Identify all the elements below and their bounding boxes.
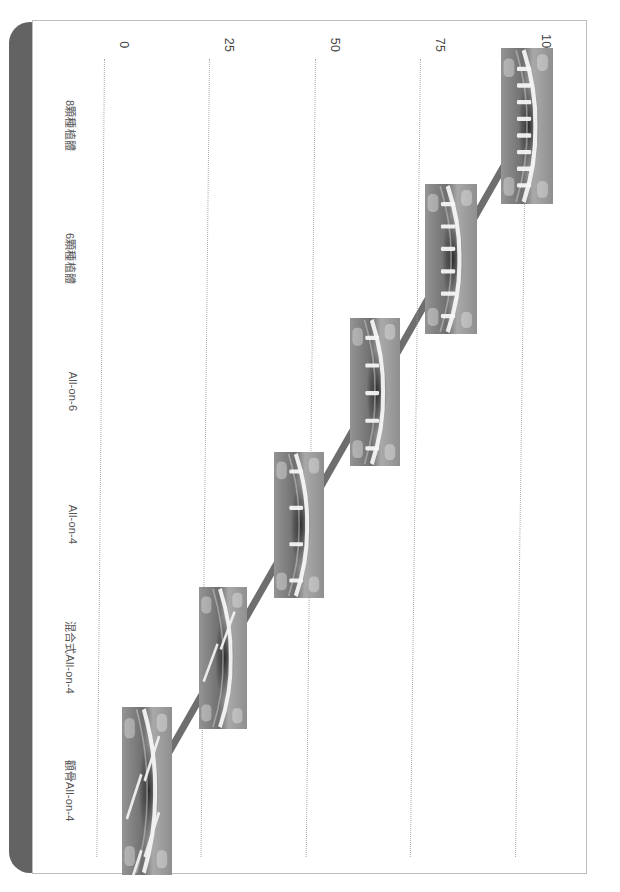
x1 [425, 184, 477, 334]
tick-label-50: 50 [328, 38, 342, 53]
x3 [274, 452, 324, 598]
category-label-2: All-on-6 [67, 372, 79, 412]
chart-plot-area[interactable]: 0255075100 8顆種植體6顆種植體All-on-6All-on-4混合式… [33, 21, 585, 873]
x5 [122, 707, 172, 875]
data-marker-0[interactable] [501, 48, 553, 204]
tick-label-75: 75 [434, 38, 448, 53]
category-label-4: 混合式All-on-4 [63, 621, 79, 694]
x0 [501, 48, 553, 204]
data-marker-1[interactable] [425, 184, 477, 334]
category-label-0: 8顆種植體 [63, 100, 79, 151]
x2 [350, 318, 400, 466]
data-marker-3[interactable] [274, 452, 324, 598]
slide-canvas: 0255075100 8顆種植體6顆種植體All-on-6All-on-4混合式… [0, 0, 620, 892]
data-marker-2[interactable] [350, 318, 400, 466]
rotated-chart-wrapper: 0255075100 8顆種植體6顆種植體All-on-6All-on-4混合式… [33, 21, 585, 873]
data-marker-4[interactable] [199, 587, 247, 729]
category-label-1: 6顆種植體 [63, 233, 79, 284]
category-label-5: 顴骨All-on-4 [63, 760, 79, 822]
data-marker-5[interactable] [122, 707, 172, 875]
x4 [199, 587, 247, 729]
tick-label-0: 0 [117, 41, 131, 48]
category-label-3: All-on-4 [67, 505, 79, 545]
tick-label-25: 25 [223, 38, 237, 53]
